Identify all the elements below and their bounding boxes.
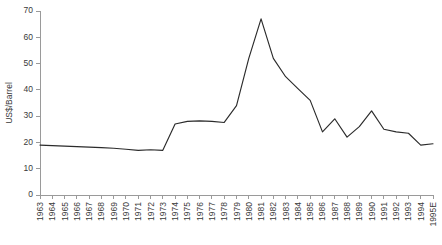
x-tick-label-1990: 1990 bbox=[367, 202, 377, 221]
x-tick-label-1970: 1970 bbox=[121, 202, 131, 221]
chart-canvas: 0102030405060701963196419651966196719681… bbox=[0, 0, 442, 245]
x-tick-label-1988: 1988 bbox=[342, 202, 352, 221]
x-tick-label-1966: 1966 bbox=[72, 202, 82, 221]
y-tick-label-0: 0 bbox=[28, 189, 33, 199]
x-tick-label-1972: 1972 bbox=[146, 202, 156, 221]
x-tick-label-1985: 1985 bbox=[305, 202, 315, 221]
x-tick-label-1991: 1991 bbox=[379, 202, 389, 221]
x-tick-label-1965: 1965 bbox=[60, 202, 70, 221]
x-tick-label-1983: 1983 bbox=[281, 202, 291, 221]
x-tick-label-1986: 1986 bbox=[317, 202, 327, 221]
x-tick-label-1978: 1978 bbox=[219, 202, 229, 221]
y-tick-label-10: 10 bbox=[24, 163, 34, 173]
x-tick-label-1994: 1994 bbox=[416, 202, 426, 221]
y-tick-label-70: 70 bbox=[24, 5, 34, 15]
y-tick-label-60: 60 bbox=[24, 32, 34, 42]
data-series-1 bbox=[40, 19, 433, 150]
x-tick-label-1971: 1971 bbox=[133, 202, 143, 221]
x-tick-label-1968: 1968 bbox=[96, 202, 106, 221]
x-tick-label-1973: 1973 bbox=[158, 202, 168, 221]
x-tick-label-1992: 1992 bbox=[391, 202, 401, 221]
x-tick-label-1980: 1980 bbox=[244, 202, 254, 221]
x-tick-label-1976: 1976 bbox=[195, 202, 205, 221]
x-tick-label-1995E: 1995E bbox=[428, 202, 438, 227]
y-tick-label-30: 30 bbox=[24, 110, 34, 120]
line-chart: 0102030405060701963196419651966196719681… bbox=[0, 0, 442, 245]
x-tick-label-1989: 1989 bbox=[354, 202, 364, 221]
x-tick-label-1977: 1977 bbox=[207, 202, 217, 221]
y-axis-title: US$/Barrel bbox=[4, 82, 14, 124]
x-tick-label-1982: 1982 bbox=[268, 202, 278, 221]
y-tick-label-50: 50 bbox=[24, 58, 34, 68]
x-tick-label-1979: 1979 bbox=[232, 202, 242, 221]
x-tick-label-1987: 1987 bbox=[330, 202, 340, 221]
y-tick-label-20: 20 bbox=[24, 137, 34, 147]
x-tick-label-1975: 1975 bbox=[182, 202, 192, 221]
x-tick-label-1981: 1981 bbox=[256, 202, 266, 221]
x-tick-label-1963: 1963 bbox=[35, 202, 45, 221]
y-tick-label-40: 40 bbox=[24, 84, 34, 94]
x-tick-label-1993: 1993 bbox=[403, 202, 413, 221]
x-tick-label-1969: 1969 bbox=[109, 202, 119, 221]
x-tick-label-1984: 1984 bbox=[293, 202, 303, 221]
x-tick-label-1974: 1974 bbox=[170, 202, 180, 221]
x-tick-label-1967: 1967 bbox=[84, 202, 94, 221]
x-tick-label-1964: 1964 bbox=[47, 202, 57, 221]
